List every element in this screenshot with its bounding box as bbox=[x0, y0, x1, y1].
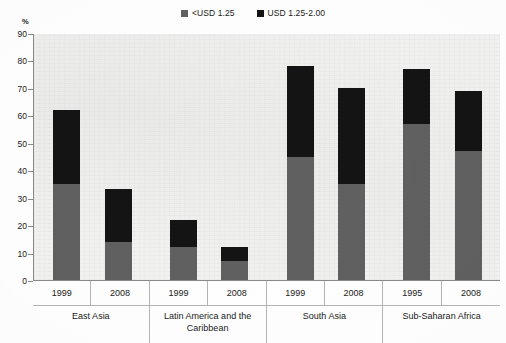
x-axis-group-label: South Asia bbox=[267, 306, 383, 343]
bar-segment-under-usd-125 bbox=[403, 124, 430, 280]
bar-segment-under-usd-125 bbox=[170, 247, 197, 280]
y-axis-unit-label: % bbox=[22, 17, 29, 26]
bar-east-asia-2008 bbox=[105, 189, 132, 280]
x-axis-group-label: East Asia bbox=[33, 306, 149, 343]
x-axis-group-label: Latin America and the Caribbean bbox=[150, 306, 266, 343]
legend-label-usd-125-200: USD 1.25-2.00 bbox=[268, 8, 326, 18]
x-axis-group-latin-america-and-the-caribbean: 19992008Latin America and the Caribbean bbox=[150, 281, 267, 343]
x-axis-year-label: 2008 bbox=[208, 281, 265, 306]
x-axis-group-sub-saharan-africa: 19952008Sub-Saharan Africa bbox=[383, 281, 500, 343]
plot-area bbox=[33, 34, 500, 281]
bar-segment-usd-125-200 bbox=[221, 247, 248, 261]
bar-segment-under-usd-125 bbox=[105, 242, 132, 280]
x-axis-group-east-asia: 19992008East Asia bbox=[33, 281, 150, 343]
x-axis-year-row: 19992008 bbox=[33, 281, 149, 306]
x-axis-year-row: 19952008 bbox=[383, 281, 500, 306]
x-axis-year-label: 2008 bbox=[325, 281, 382, 306]
legend-label-under-usd-125: <USD 1.25 bbox=[192, 8, 235, 18]
poverty-rate-chart: <USD 1.25 USD 1.25-2.00 % 90807060504030… bbox=[0, 0, 506, 343]
chart-legend: <USD 1.25 USD 1.25-2.00 bbox=[0, 8, 506, 18]
x-axis-year-label: 2008 bbox=[91, 281, 148, 306]
bar-south-asia-2008 bbox=[338, 88, 365, 280]
bar-segment-under-usd-125 bbox=[287, 157, 314, 281]
bar-segment-under-usd-125 bbox=[338, 184, 365, 280]
x-axis-group-label: Sub-Saharan Africa bbox=[383, 306, 500, 343]
legend-swatch-under-usd-125 bbox=[181, 10, 188, 17]
bar-sub-saharan-africa-2008 bbox=[455, 91, 482, 280]
bar-east-asia-1999 bbox=[53, 110, 80, 280]
x-axis-year-label: 1999 bbox=[150, 281, 208, 306]
x-axis-year-row: 19992008 bbox=[267, 281, 383, 306]
bar-segment-usd-125-200 bbox=[287, 66, 314, 157]
bar-latin-america-and-the-caribbean-1999 bbox=[170, 220, 197, 280]
legend-swatch-usd-125-200 bbox=[257, 10, 264, 17]
x-axis-year-label: 2008 bbox=[442, 281, 500, 306]
bar-segment-usd-125-200 bbox=[170, 220, 197, 247]
x-axis-categories: 19992008East Asia19992008Latin America a… bbox=[33, 281, 500, 343]
legend-item-under-usd-125: <USD 1.25 bbox=[181, 8, 235, 18]
x-axis-year-label: 1995 bbox=[383, 281, 442, 306]
legend-item-usd-125-200: USD 1.25-2.00 bbox=[257, 8, 326, 18]
bar-segment-under-usd-125 bbox=[221, 261, 248, 280]
bar-segment-usd-125-200 bbox=[53, 110, 80, 184]
bar-segment-usd-125-200 bbox=[338, 88, 365, 184]
bar-sub-saharan-africa-1995 bbox=[403, 69, 430, 280]
x-axis-year-label: 1999 bbox=[267, 281, 325, 306]
bar-segment-under-usd-125 bbox=[455, 151, 482, 280]
bar-south-asia-1999 bbox=[287, 66, 314, 280]
x-axis-group-south-asia: 19992008South Asia bbox=[267, 281, 384, 343]
x-axis-year-row: 19992008 bbox=[150, 281, 266, 306]
bar-latin-america-and-the-caribbean-2008 bbox=[221, 247, 248, 280]
bar-segment-usd-125-200 bbox=[403, 69, 430, 124]
x-axis-year-label: 1999 bbox=[33, 281, 91, 306]
bar-segment-usd-125-200 bbox=[105, 189, 132, 241]
bar-segment-under-usd-125 bbox=[53, 184, 80, 280]
bar-segment-usd-125-200 bbox=[455, 91, 482, 151]
